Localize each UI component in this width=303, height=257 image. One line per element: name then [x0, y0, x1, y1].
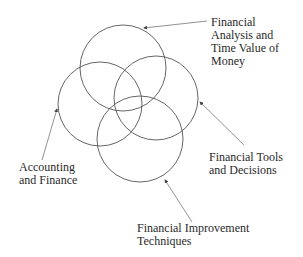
label-financial-improvement: Financial Improvement Techniques [137, 222, 249, 248]
arrow-accounting-finance [42, 109, 57, 160]
label-accounting-finance: Accounting and Finance [19, 161, 77, 187]
venn-diagram: Financial Analysis and Time Value of Mon… [0, 0, 303, 257]
arrow-financial-improvement [165, 180, 192, 222]
label-financial-tools: Financial Tools and Decisions [209, 151, 283, 177]
circle-financial-improvement [97, 96, 183, 182]
label-financial-analysis: Financial Analysis and Time Value of Mon… [211, 16, 279, 68]
arrow-financial-tools [200, 102, 244, 145]
arrow-financial-analysis [144, 21, 207, 28]
